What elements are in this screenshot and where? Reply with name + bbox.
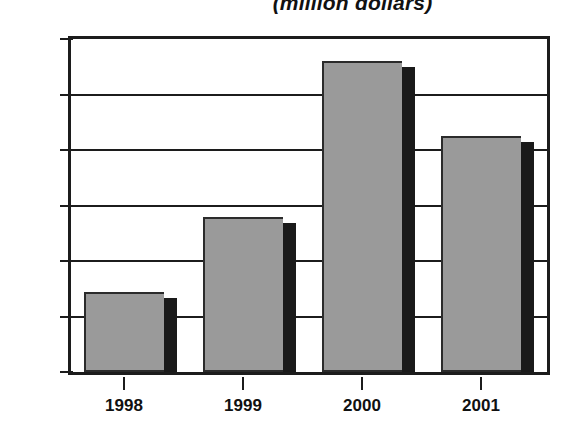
bar-2001 (441, 136, 534, 372)
y-axis-tick-mark (60, 371, 73, 373)
bar-body (203, 217, 283, 372)
x-axis-tick-label-2000: 2000 (302, 396, 422, 416)
y-axis-tick-mark (60, 38, 73, 40)
x-axis-tick-label-1999: 1999 (183, 396, 303, 416)
bar-shadow (402, 67, 415, 372)
x-axis-tick-mark (123, 377, 125, 390)
gridline (71, 94, 547, 96)
x-axis-tick-mark (242, 377, 244, 390)
bar-chart-figure: (million dollars) 3,3003,2503,2003,1503,… (0, 0, 575, 436)
x-axis-tick-label-1998: 1998 (64, 396, 184, 416)
bar-shadow (164, 298, 177, 372)
plot-inner (71, 39, 547, 372)
chart-title: (million dollars) (0, 0, 575, 15)
y-axis-tick-mark (60, 205, 73, 207)
bar-2000 (322, 61, 415, 372)
y-axis-tick-mark (60, 316, 73, 318)
x-axis-tick-mark (480, 377, 482, 390)
bar-shadow (283, 223, 296, 372)
bar-1999 (203, 217, 296, 372)
x-axis-tick-label-2001: 2001 (421, 396, 541, 416)
plot-area (68, 36, 550, 375)
bar-shadow (521, 142, 534, 372)
bar-body (322, 61, 402, 372)
x-axis-tick-mark (361, 377, 363, 390)
bar-1998 (84, 292, 177, 372)
y-axis-tick-mark (60, 149, 73, 151)
y-axis-tick-mark (60, 260, 73, 262)
bar-body (441, 136, 521, 372)
bar-body (84, 292, 164, 372)
y-axis-tick-mark (60, 94, 73, 96)
